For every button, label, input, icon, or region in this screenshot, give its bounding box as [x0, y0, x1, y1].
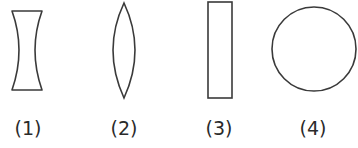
shape-label-4: (4): [293, 116, 333, 140]
concave-lens-shape: [12, 11, 42, 90]
rectangular-block-shape: [208, 2, 232, 98]
convex-lens-shape: [113, 3, 135, 98]
shape-label-2: (2): [104, 116, 144, 140]
shape-label-3: (3): [199, 116, 239, 140]
circle-shape: [272, 7, 356, 91]
shape-label-1: (1): [8, 116, 48, 140]
